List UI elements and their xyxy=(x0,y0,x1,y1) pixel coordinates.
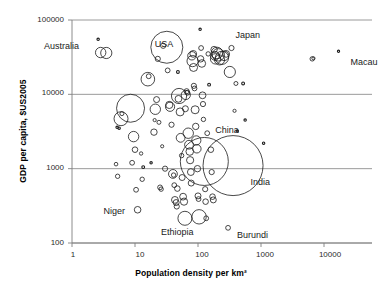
data-point-bubble xyxy=(134,187,139,192)
data-point-bubble xyxy=(187,169,194,176)
data-point-bubble xyxy=(206,52,210,56)
data-point-bubble xyxy=(205,131,210,136)
data-point-bubble xyxy=(172,183,177,188)
data-point-bubble xyxy=(151,129,157,135)
data-point-bubble xyxy=(183,128,193,138)
data-point-bubble xyxy=(199,92,206,99)
data-point-bubble xyxy=(97,38,99,40)
y-tick-100: 100 xyxy=(18,238,64,247)
data-point-bubble xyxy=(229,45,234,50)
data-point-bubble xyxy=(140,177,144,181)
data-point-bubble xyxy=(209,169,214,174)
data-point-bubble xyxy=(224,66,235,77)
data-point-bubble xyxy=(210,197,216,203)
data-point-bubble xyxy=(203,187,208,192)
data-point-bubble xyxy=(177,71,180,74)
data-point-bubble xyxy=(130,160,135,165)
point-label-australia: Australia xyxy=(44,41,79,51)
data-point-bubble xyxy=(174,204,179,209)
data-point-bubble xyxy=(180,198,187,205)
data-point-bubble xyxy=(161,145,164,148)
data-point-bubble xyxy=(190,63,198,71)
data-point-bubble xyxy=(128,131,138,141)
data-point-bubble xyxy=(208,83,211,86)
data-point-bubble xyxy=(234,81,238,85)
data-point-bubble xyxy=(150,162,152,164)
data-point-bubble xyxy=(201,117,205,121)
data-point-bubble xyxy=(114,162,118,166)
point-label-japan: Japan xyxy=(235,30,260,40)
y-tick-100000: 100000 xyxy=(18,15,64,24)
point-label-india: India xyxy=(251,177,271,187)
data-point-bubble xyxy=(132,147,138,153)
data-point-bubble xyxy=(178,211,192,225)
data-point-bubble xyxy=(203,199,209,205)
x-tick-1: 1 xyxy=(51,250,95,259)
data-point-bubble xyxy=(226,225,231,230)
x-tick-100: 100 xyxy=(180,250,224,259)
point-label-niger: Niger xyxy=(104,206,126,216)
data-point-bubble xyxy=(165,102,174,111)
gdp-vs-population-density-chart: 100000 10000 1000 100 1 10 100 1000 1000… xyxy=(0,0,382,291)
data-point-bubble xyxy=(195,193,201,199)
data-point-bubble xyxy=(182,106,188,112)
data-point-bubble xyxy=(146,74,151,79)
data-point-bubble xyxy=(169,122,174,127)
data-point-bubble xyxy=(193,145,201,153)
x-tick-10000: 10000 xyxy=(308,250,352,259)
y-axis-title: GDP per capita, $US2005 xyxy=(18,79,28,182)
data-point-bubble xyxy=(154,97,160,103)
data-point-bubble xyxy=(242,82,245,85)
data-point-bubble xyxy=(199,46,204,51)
point-label-burundi: Burundi xyxy=(237,230,268,240)
data-point-bubble xyxy=(115,174,119,178)
data-point-bubble xyxy=(175,186,181,192)
y-axis-title-wrapper: GDP per capita, $US2005 xyxy=(12,46,30,216)
data-point-bubble xyxy=(179,175,185,181)
data-point-bubble xyxy=(117,94,145,122)
data-point-bubble xyxy=(175,95,182,102)
data-point-bubble xyxy=(142,166,145,169)
x-tick-1000: 1000 xyxy=(243,250,287,259)
data-point-bubble xyxy=(180,193,187,200)
data-point-bubble xyxy=(153,119,156,122)
data-point-bubble xyxy=(120,112,124,116)
data-point-bubble xyxy=(198,60,206,68)
data-point-bubble xyxy=(337,50,339,52)
data-point-bubble xyxy=(215,51,228,64)
x-tick-10: 10 xyxy=(118,250,162,259)
data-point-bubble xyxy=(199,28,201,30)
data-point-bubble xyxy=(176,108,184,116)
data-point-bubble xyxy=(134,206,141,213)
data-point-bubble xyxy=(176,133,185,142)
data-point-bubble xyxy=(187,157,194,164)
data-point-bubble xyxy=(200,101,205,106)
data-point-bubble xyxy=(101,47,112,58)
data-point-bubble xyxy=(118,127,120,129)
data-point-bubble xyxy=(193,123,199,129)
data-point-bubble xyxy=(150,104,160,114)
data-point-bubble xyxy=(180,137,228,185)
data-point-bubble xyxy=(157,120,161,124)
point-label-ethiopia: Ethiopia xyxy=(161,227,194,237)
x-axis-title: Population density per km² xyxy=(0,268,382,278)
data-point-bubble xyxy=(171,173,175,177)
data-point-bubble xyxy=(139,152,142,155)
data-point-bubble xyxy=(244,119,246,121)
data-point-bubble xyxy=(262,142,264,144)
data-point-bubble xyxy=(233,109,236,112)
data-point-bubble xyxy=(191,106,199,114)
point-label-china: China xyxy=(215,125,239,135)
data-point-bubble xyxy=(165,68,170,73)
point-label-usa: USA xyxy=(155,39,174,49)
point-label-macau: Macau xyxy=(351,57,378,67)
